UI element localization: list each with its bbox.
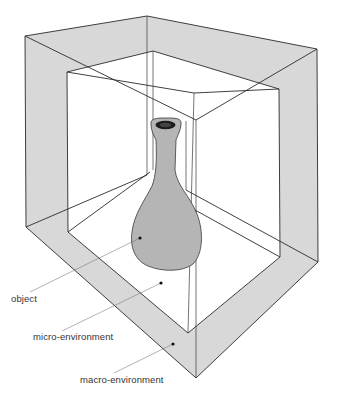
micro-marker: [159, 281, 162, 284]
macro-marker: [171, 342, 174, 345]
object-label: object: [11, 293, 37, 304]
enclosure-diagram: [0, 0, 338, 412]
vase-object: [132, 118, 202, 270]
micro-environment-label: micro-environment: [33, 331, 113, 342]
object-marker: [138, 236, 141, 239]
macro-environment-label: macro-environment: [80, 374, 164, 385]
